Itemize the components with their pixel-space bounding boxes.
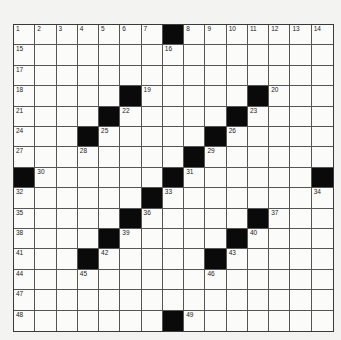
- grid-cell[interactable]: [142, 168, 163, 188]
- grid-cell[interactable]: [248, 188, 269, 208]
- grid-cell[interactable]: [248, 249, 269, 269]
- grid-cell[interactable]: [184, 249, 205, 269]
- grid-cell[interactable]: [290, 270, 311, 290]
- grid-cell[interactable]: [269, 45, 290, 65]
- grid-cell[interactable]: [35, 127, 56, 147]
- grid-cell[interactable]: [184, 107, 205, 127]
- grid-cell[interactable]: 46: [205, 270, 226, 290]
- grid-cell[interactable]: [269, 147, 290, 167]
- grid-cell[interactable]: 21: [14, 107, 35, 127]
- grid-cell[interactable]: 37: [269, 209, 290, 229]
- grid-cell[interactable]: [248, 168, 269, 188]
- grid-cell[interactable]: [78, 188, 99, 208]
- grid-cell[interactable]: [57, 249, 78, 269]
- grid-cell[interactable]: 23: [248, 107, 269, 127]
- grid-cell[interactable]: 41: [14, 249, 35, 269]
- grid-cell[interactable]: [227, 188, 248, 208]
- grid-cell[interactable]: [248, 270, 269, 290]
- grid-cell[interactable]: 10: [227, 25, 248, 45]
- grid-cell[interactable]: 32: [14, 188, 35, 208]
- grid-cell[interactable]: [99, 147, 120, 167]
- grid-cell[interactable]: [120, 249, 141, 269]
- grid-cell[interactable]: [290, 107, 311, 127]
- grid-cell[interactable]: [99, 66, 120, 86]
- grid-cell[interactable]: 31: [184, 168, 205, 188]
- grid-cell[interactable]: 34: [312, 188, 333, 208]
- grid-cell[interactable]: [35, 188, 56, 208]
- grid-cell[interactable]: [120, 127, 141, 147]
- grid-cell[interactable]: [78, 107, 99, 127]
- grid-cell[interactable]: [184, 290, 205, 310]
- grid-cell[interactable]: [142, 270, 163, 290]
- grid-cell[interactable]: [312, 229, 333, 249]
- grid-cell[interactable]: [35, 147, 56, 167]
- grid-cell[interactable]: [57, 270, 78, 290]
- grid-cell[interactable]: 28: [78, 147, 99, 167]
- grid-cell[interactable]: [35, 229, 56, 249]
- grid-cell[interactable]: [120, 188, 141, 208]
- grid-cell[interactable]: [205, 229, 226, 249]
- grid-cell[interactable]: 20: [269, 86, 290, 106]
- grid-cell[interactable]: [227, 290, 248, 310]
- grid-cell[interactable]: [312, 127, 333, 147]
- grid-cell[interactable]: 42: [99, 249, 120, 269]
- grid-cell[interactable]: [163, 127, 184, 147]
- grid-cell[interactable]: [99, 86, 120, 106]
- grid-cell[interactable]: [163, 147, 184, 167]
- grid-cell[interactable]: [227, 270, 248, 290]
- grid-cell[interactable]: [163, 66, 184, 86]
- grid-cell[interactable]: [227, 66, 248, 86]
- grid-cell[interactable]: [269, 311, 290, 331]
- grid-cell[interactable]: [205, 86, 226, 106]
- grid-cell[interactable]: [290, 209, 311, 229]
- grid-cell[interactable]: 33: [163, 188, 184, 208]
- grid-cell[interactable]: [312, 107, 333, 127]
- grid-cell[interactable]: 14: [312, 25, 333, 45]
- grid-cell[interactable]: [290, 229, 311, 249]
- grid-cell[interactable]: [290, 86, 311, 106]
- grid-cell[interactable]: [248, 45, 269, 65]
- grid-cell[interactable]: [269, 249, 290, 269]
- grid-cell[interactable]: [184, 188, 205, 208]
- grid-cell[interactable]: [290, 249, 311, 269]
- grid-cell[interactable]: [290, 147, 311, 167]
- grid-cell[interactable]: [312, 249, 333, 269]
- grid-cell[interactable]: 6: [120, 25, 141, 45]
- grid-cell[interactable]: [57, 45, 78, 65]
- grid-cell[interactable]: [205, 45, 226, 65]
- grid-cell[interactable]: 43: [227, 249, 248, 269]
- grid-cell[interactable]: [163, 270, 184, 290]
- grid-cell[interactable]: [312, 45, 333, 65]
- grid-cell[interactable]: 11: [248, 25, 269, 45]
- grid-cell[interactable]: [269, 168, 290, 188]
- grid-cell[interactable]: [163, 290, 184, 310]
- grid-cell[interactable]: 16: [163, 45, 184, 65]
- grid-cell[interactable]: [35, 311, 56, 331]
- grid-cell[interactable]: [78, 229, 99, 249]
- grid-cell[interactable]: [184, 45, 205, 65]
- grid-cell[interactable]: [120, 290, 141, 310]
- grid-cell[interactable]: 40: [248, 229, 269, 249]
- grid-cell[interactable]: 47: [14, 290, 35, 310]
- grid-cell[interactable]: [57, 209, 78, 229]
- grid-cell[interactable]: [312, 86, 333, 106]
- grid-cell[interactable]: 7: [142, 25, 163, 45]
- grid-cell[interactable]: 45: [78, 270, 99, 290]
- grid-cell[interactable]: [99, 311, 120, 331]
- grid-cell[interactable]: 27: [14, 147, 35, 167]
- grid-cell[interactable]: [99, 209, 120, 229]
- grid-cell[interactable]: [312, 209, 333, 229]
- grid-cell[interactable]: [120, 66, 141, 86]
- grid-cell[interactable]: 18: [14, 86, 35, 106]
- grid-cell[interactable]: [142, 107, 163, 127]
- grid-cell[interactable]: [57, 107, 78, 127]
- grid-cell[interactable]: [312, 147, 333, 167]
- grid-cell[interactable]: [227, 209, 248, 229]
- grid-cell[interactable]: [163, 86, 184, 106]
- grid-cell[interactable]: 35: [14, 209, 35, 229]
- grid-cell[interactable]: [35, 86, 56, 106]
- grid-cell[interactable]: [290, 311, 311, 331]
- grid-cell[interactable]: [142, 311, 163, 331]
- grid-cell[interactable]: [120, 168, 141, 188]
- grid-cell[interactable]: [290, 168, 311, 188]
